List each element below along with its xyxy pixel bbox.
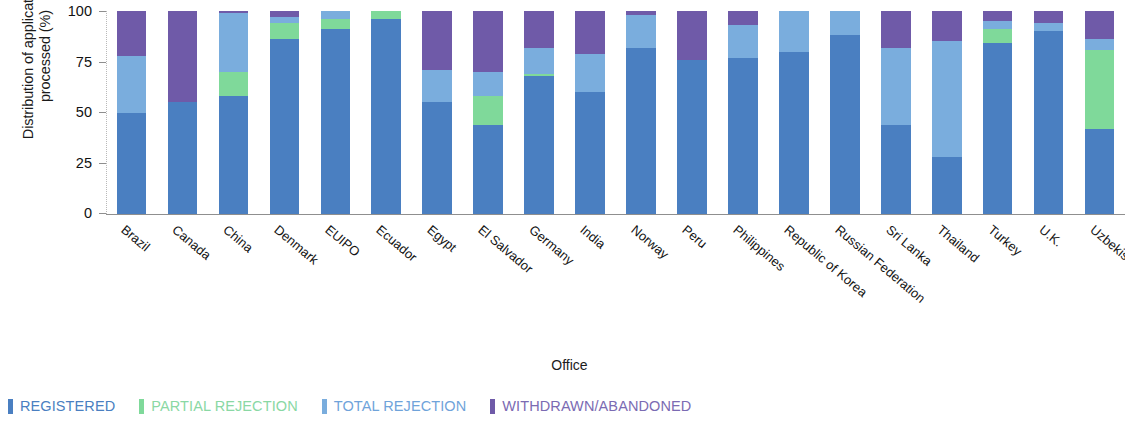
bar-segment — [1034, 23, 1064, 31]
bar-segment — [728, 25, 758, 57]
bar-segment — [270, 23, 300, 39]
bar-slot — [106, 11, 157, 214]
y-tick-mark — [99, 163, 106, 164]
legend-label: REGISTERED — [20, 398, 115, 414]
stacked-bar[interactable] — [321, 11, 351, 214]
stacked-bar[interactable] — [168, 11, 198, 214]
bar-segment — [524, 76, 554, 214]
bar-segment — [1085, 129, 1115, 214]
bar-slot — [717, 11, 768, 214]
x-label-slot: Brazil — [106, 216, 157, 316]
stacked-bar[interactable] — [575, 11, 605, 214]
stacked-bar[interactable] — [626, 11, 656, 214]
bar-slot — [208, 11, 259, 214]
x-label-slot: Russian Federation — [819, 216, 870, 316]
bar-segment — [371, 11, 401, 19]
bar-slot — [921, 11, 972, 214]
bar-segment — [983, 29, 1013, 43]
legend-swatch-icon — [139, 399, 144, 414]
stacked-bar[interactable] — [270, 11, 300, 214]
x-label-slot: Germany — [514, 216, 565, 316]
bar-segment — [575, 11, 605, 54]
bar-slot — [514, 11, 565, 214]
x-tick-label: Uzbekistan — [1087, 222, 1125, 275]
y-tick-mark — [99, 11, 106, 12]
bar-segment — [881, 125, 911, 214]
bar-segment — [779, 52, 809, 214]
bar-segment — [728, 58, 758, 214]
y-tick-label: 0 — [30, 206, 92, 221]
x-label-slot: Peru — [666, 216, 717, 316]
bar-slot — [1023, 11, 1074, 214]
bar-slot — [1074, 11, 1125, 214]
legend-label: TOTAL REJECTION — [334, 398, 467, 414]
legend-item[interactable]: PARTIAL REJECTION — [139, 398, 297, 414]
bar-segment — [779, 11, 809, 52]
x-label-slot: India — [565, 216, 616, 316]
bar-slot — [768, 11, 819, 214]
x-label-slot: U.K. — [1023, 216, 1074, 316]
stacked-bar[interactable] — [1085, 11, 1115, 214]
bar-segment — [983, 21, 1013, 29]
bar-segment — [830, 35, 860, 214]
bar-segment — [219, 13, 249, 72]
x-tick-label: EUIPO — [323, 222, 364, 260]
legend-item[interactable]: REGISTERED — [8, 398, 115, 414]
bar-segment — [422, 11, 452, 70]
stacked-bar[interactable] — [117, 11, 147, 214]
bar-slot — [310, 11, 361, 214]
stacked-bar[interactable] — [422, 11, 452, 214]
x-tick-label: U.K. — [1036, 222, 1065, 250]
bar-segment — [473, 125, 503, 214]
stacked-bar[interactable] — [881, 11, 911, 214]
bar-segment — [473, 96, 503, 124]
y-tick-mark — [99, 213, 106, 214]
x-label-slot: Uzbekistan — [1074, 216, 1125, 316]
stacked-bar[interactable] — [473, 11, 503, 214]
x-label-slot: Egypt — [412, 216, 463, 316]
bar-slot — [819, 11, 870, 214]
legend-item[interactable]: TOTAL REJECTION — [322, 398, 467, 414]
bar-segment — [932, 157, 962, 214]
stacked-bar[interactable] — [983, 11, 1013, 214]
bar-slot — [666, 11, 717, 214]
stacked-bar[interactable] — [524, 11, 554, 214]
bar-segment — [983, 11, 1013, 21]
bar-segment — [1034, 31, 1064, 214]
bar-segment — [219, 72, 249, 96]
bar-segment — [626, 15, 656, 47]
stacked-bar[interactable] — [1034, 11, 1064, 214]
stacked-bar[interactable] — [677, 11, 707, 214]
x-tick-label: Norway — [628, 222, 671, 262]
bar-segment — [371, 19, 401, 214]
y-axis-title-wrapper: Distribution of applications processed (… — [19, 0, 55, 156]
x-tick-label: Peru — [679, 222, 710, 251]
bar-segment — [728, 11, 758, 25]
y-tick-mark — [99, 112, 106, 113]
y-tick-label: 25 — [30, 156, 92, 171]
stacked-bar[interactable] — [932, 11, 962, 214]
bar-segment — [422, 102, 452, 214]
stacked-bar-chart: Distribution of applications processed (… — [0, 0, 1125, 425]
stacked-bar[interactable] — [728, 11, 758, 214]
x-label-slot: El Salvador — [463, 216, 514, 316]
legend-item[interactable]: WITHDRAWN/ABANDONED — [490, 398, 691, 414]
x-label-slot: Ecuador — [361, 216, 412, 316]
stacked-bar[interactable] — [830, 11, 860, 214]
bar-segment — [270, 39, 300, 214]
bar-segment — [677, 11, 707, 60]
x-label-slot: Thailand — [921, 216, 972, 316]
bar-slot — [157, 11, 208, 214]
stacked-bar[interactable] — [371, 11, 401, 214]
bar-slot — [565, 11, 616, 214]
bar-segment — [117, 56, 147, 113]
bar-segment — [321, 11, 351, 19]
bar-segment — [575, 92, 605, 214]
stacked-bar[interactable] — [779, 11, 809, 214]
bar-segment — [932, 41, 962, 157]
bar-segment — [881, 48, 911, 125]
bar-segment — [677, 60, 707, 214]
y-tick-label: 100 — [30, 4, 92, 19]
bar-segment — [983, 43, 1013, 214]
stacked-bar[interactable] — [219, 11, 249, 214]
